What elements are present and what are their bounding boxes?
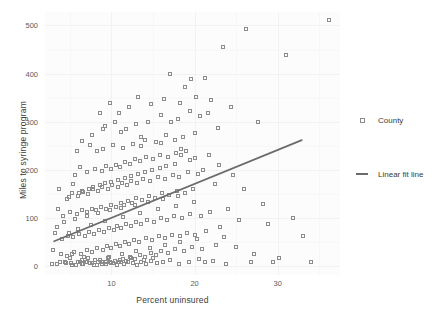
legend-label-fit-line: Linear fit line: [378, 170, 423, 179]
legend-item-fit-line[interactable]: Linear fit line: [355, 166, 440, 182]
legend-item-county[interactable]: County: [355, 112, 440, 128]
x-tick-label: 20: [180, 279, 210, 288]
x-axis-title: Percent uninsured: [0, 295, 345, 305]
y-tick-label: 500: [8, 21, 38, 30]
plot-panel: [45, 12, 340, 275]
x-tick-label: 30: [263, 279, 293, 288]
x-tick-label: 10: [96, 279, 126, 288]
county-marker-icon: [355, 118, 369, 123]
y-axis-title: Miles to syringe program: [18, 75, 28, 225]
legend-label-county: County: [378, 116, 403, 125]
x-axis-ticks: 102030: [0, 279, 440, 293]
scatter-chart: 0100200300400500 102030 Percent uninsure…: [0, 0, 440, 320]
fit-line-marker-icon: [355, 173, 369, 175]
linear-fit-line: [45, 12, 340, 275]
legend: County Linear fit line: [355, 112, 440, 220]
y-tick-label: 0: [8, 262, 38, 271]
